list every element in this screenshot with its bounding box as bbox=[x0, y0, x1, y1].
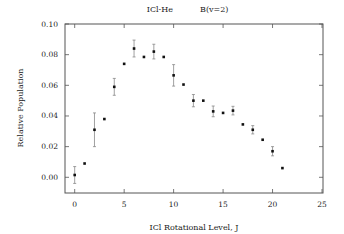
data-series bbox=[73, 40, 284, 183]
data-point bbox=[113, 86, 116, 89]
data-point bbox=[172, 74, 175, 77]
data-point bbox=[73, 174, 76, 177]
data-point bbox=[242, 123, 245, 126]
y-tick-label: 0.06 bbox=[41, 81, 58, 90]
y-axis: 0.000.020.040.060.080.10 bbox=[41, 20, 323, 182]
data-point bbox=[222, 112, 225, 115]
data-point bbox=[212, 110, 215, 113]
data-point bbox=[202, 99, 205, 102]
x-axis: 0510152025 bbox=[72, 24, 327, 209]
y-tick-label: 0.02 bbox=[41, 142, 58, 151]
data-point bbox=[281, 167, 284, 170]
data-point bbox=[153, 50, 156, 53]
plot-frame bbox=[65, 24, 323, 193]
data-point bbox=[182, 83, 185, 86]
y-axis-label: Relative Population bbox=[16, 69, 25, 148]
x-tick-label: 10 bbox=[169, 200, 179, 209]
data-point bbox=[123, 63, 126, 66]
chart-title-right: B(v=2) bbox=[200, 5, 228, 14]
chart-title: ICl-He B(v=2) bbox=[147, 5, 229, 14]
data-point bbox=[103, 118, 106, 121]
y-tick-label: 0.00 bbox=[41, 173, 58, 182]
chart-title-left: ICl-He bbox=[147, 5, 174, 14]
x-tick-label: 25 bbox=[317, 200, 327, 209]
x-tick-label: 5 bbox=[122, 200, 127, 209]
data-point bbox=[133, 47, 136, 50]
data-point bbox=[192, 99, 195, 102]
chart: ICl-He B(v=2) 0510152025 0.000.020.040.0… bbox=[0, 0, 344, 234]
y-tick-label: 0.10 bbox=[41, 20, 58, 29]
x-tick-label: 15 bbox=[218, 200, 228, 209]
y-tick-label: 0.04 bbox=[41, 111, 58, 120]
data-point bbox=[232, 109, 235, 112]
data-point bbox=[83, 162, 86, 165]
data-point bbox=[261, 138, 264, 141]
y-tick-label: 0.08 bbox=[41, 50, 58, 59]
data-point bbox=[93, 128, 96, 131]
data-point bbox=[162, 56, 165, 59]
data-point bbox=[271, 150, 274, 153]
x-tick-label: 20 bbox=[268, 200, 278, 209]
x-tick-label: 0 bbox=[72, 200, 77, 209]
data-point bbox=[143, 56, 146, 59]
x-axis-label: ICl Rotational Level, J bbox=[150, 223, 239, 232]
data-point bbox=[251, 128, 254, 131]
